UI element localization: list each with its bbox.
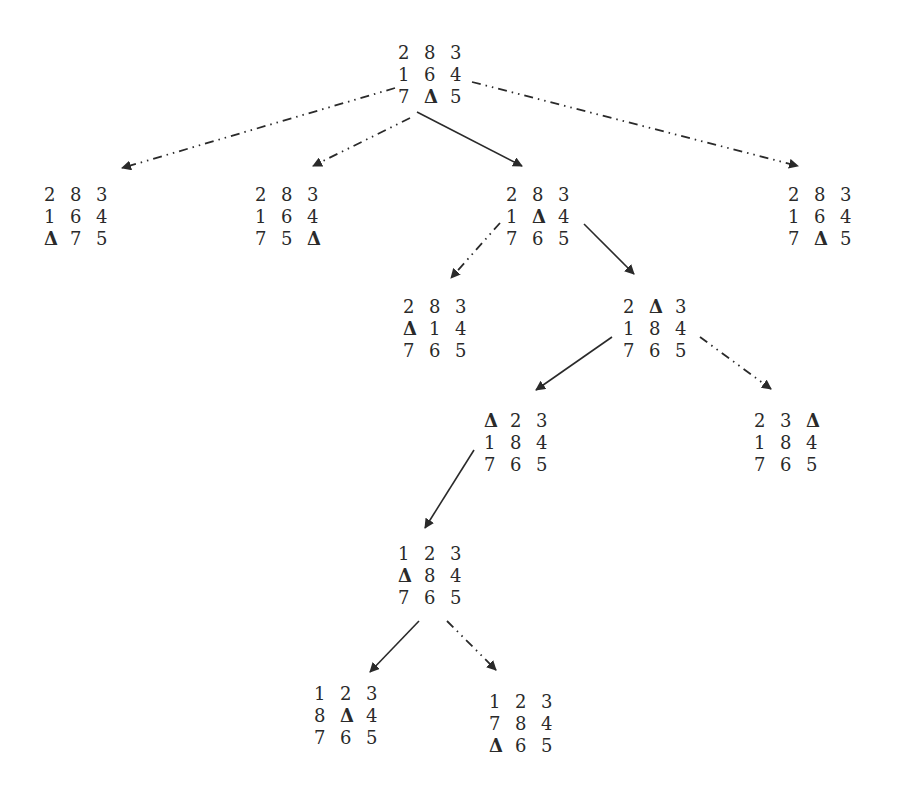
tile: 1 bbox=[623, 318, 649, 340]
tile: 7 bbox=[489, 713, 515, 735]
tile: 3 bbox=[536, 410, 562, 432]
tile: 3 bbox=[455, 296, 481, 318]
tile: 7 bbox=[398, 86, 424, 108]
tile: 7 bbox=[754, 454, 780, 476]
state-node-l1b: 28316475Δ bbox=[255, 184, 333, 250]
state-node-l1d: 2831647Δ5 bbox=[788, 184, 866, 250]
tile: 2 bbox=[255, 184, 281, 206]
tile: 8 bbox=[429, 296, 455, 318]
dashdot-arrow-root-to-l1a bbox=[122, 88, 395, 168]
tile: 6 bbox=[780, 454, 806, 476]
tile: 5 bbox=[806, 454, 832, 476]
blank-tile: Δ bbox=[307, 228, 333, 250]
tile: 6 bbox=[429, 340, 455, 362]
tile: 8 bbox=[314, 705, 340, 727]
tile: 8 bbox=[510, 432, 536, 454]
blank-tile: Δ bbox=[424, 86, 450, 108]
tile: 5 bbox=[536, 454, 562, 476]
blank-tile: Δ bbox=[649, 296, 675, 318]
state-node-l1c: 2831Δ4765 bbox=[506, 184, 584, 250]
tile: 5 bbox=[541, 735, 567, 757]
state-node-l1a: 283164Δ75 bbox=[44, 184, 122, 250]
tile: 1 bbox=[484, 432, 510, 454]
tile: 7 bbox=[403, 340, 429, 362]
tile: 3 bbox=[450, 543, 476, 565]
tile: 3 bbox=[307, 184, 333, 206]
tile: 2 bbox=[515, 691, 541, 713]
tile: 1 bbox=[788, 206, 814, 228]
state-node-l2a: 283Δ14765 bbox=[403, 296, 481, 362]
solid-arrow-l4a-to-l5a bbox=[370, 621, 419, 672]
blank-tile: Δ bbox=[484, 410, 510, 432]
tile: 3 bbox=[450, 42, 476, 64]
tile: 5 bbox=[366, 727, 392, 749]
blank-tile: Δ bbox=[806, 410, 832, 432]
solid-arrow-root-to-l1c bbox=[417, 112, 522, 166]
tile: 8 bbox=[814, 184, 840, 206]
tile: 4 bbox=[558, 206, 584, 228]
solid-arrow-l3a-to-l4a bbox=[425, 450, 474, 528]
tile: 2 bbox=[506, 184, 532, 206]
tile: 8 bbox=[424, 42, 450, 64]
tile: 5 bbox=[675, 340, 701, 362]
tile: 8 bbox=[649, 318, 675, 340]
tile: 8 bbox=[515, 713, 541, 735]
tile: 6 bbox=[424, 64, 450, 86]
tile: 1 bbox=[255, 206, 281, 228]
tile: 5 bbox=[840, 228, 866, 250]
tile: 6 bbox=[281, 206, 307, 228]
blank-tile: Δ bbox=[398, 565, 424, 587]
tile: 2 bbox=[754, 410, 780, 432]
tile: 3 bbox=[366, 683, 392, 705]
state-node-l5b: 123784Δ65 bbox=[489, 691, 567, 757]
tile: 2 bbox=[424, 543, 450, 565]
tile: 7 bbox=[506, 228, 532, 250]
tile: 1 bbox=[489, 691, 515, 713]
tile: 2 bbox=[510, 410, 536, 432]
tile: 5 bbox=[558, 228, 584, 250]
state-node-l2b: 2Δ3184765 bbox=[623, 296, 701, 362]
tile: 8 bbox=[281, 184, 307, 206]
tile: 4 bbox=[96, 206, 122, 228]
tile: 4 bbox=[840, 206, 866, 228]
tile: 2 bbox=[398, 42, 424, 64]
blank-tile: Δ bbox=[489, 735, 515, 757]
blank-tile: Δ bbox=[44, 228, 70, 250]
tile: 6 bbox=[340, 727, 366, 749]
tile: 4 bbox=[675, 318, 701, 340]
tile: 5 bbox=[455, 340, 481, 362]
dashdot-arrow-root-to-l1b bbox=[313, 118, 410, 166]
tile: 1 bbox=[754, 432, 780, 454]
tile: 4 bbox=[450, 565, 476, 587]
tile: 1 bbox=[429, 318, 455, 340]
solid-arrow-l1c-to-l2b bbox=[584, 224, 634, 274]
dashdot-arrow-l2b-to-l3b bbox=[700, 337, 771, 389]
tile: 6 bbox=[649, 340, 675, 362]
tile: 3 bbox=[675, 296, 701, 318]
tile: 2 bbox=[340, 683, 366, 705]
tile: 2 bbox=[44, 184, 70, 206]
tile: 3 bbox=[780, 410, 806, 432]
tile: 8 bbox=[532, 184, 558, 206]
tile: 8 bbox=[70, 184, 96, 206]
blank-tile: Δ bbox=[532, 206, 558, 228]
tile: 2 bbox=[623, 296, 649, 318]
tile: 7 bbox=[484, 454, 510, 476]
edge-layer bbox=[0, 0, 898, 800]
tile: 2 bbox=[403, 296, 429, 318]
tile: 8 bbox=[424, 565, 450, 587]
tile: 6 bbox=[70, 206, 96, 228]
tile: 5 bbox=[450, 587, 476, 609]
tile: 6 bbox=[532, 228, 558, 250]
tile: 6 bbox=[510, 454, 536, 476]
tile: 1 bbox=[398, 64, 424, 86]
tile: 5 bbox=[450, 86, 476, 108]
tile: 6 bbox=[814, 206, 840, 228]
tile: 1 bbox=[314, 683, 340, 705]
tile: 3 bbox=[96, 184, 122, 206]
state-node-l5a: 1238Δ4765 bbox=[314, 683, 392, 749]
tile: 3 bbox=[541, 691, 567, 713]
tile: 7 bbox=[255, 228, 281, 250]
tile: 3 bbox=[840, 184, 866, 206]
state-node-l3a: Δ23184765 bbox=[484, 410, 562, 476]
